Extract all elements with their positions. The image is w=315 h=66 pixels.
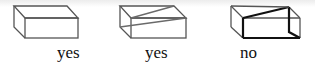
figure-1-label: yes <box>57 43 80 63</box>
figure-3-top-back-edge <box>231 6 289 7</box>
figure-2-label: yes <box>145 43 168 63</box>
figure-1-box <box>14 6 78 38</box>
figure-3-bold-edges <box>243 7 300 38</box>
figure-3-label: no <box>240 43 257 63</box>
